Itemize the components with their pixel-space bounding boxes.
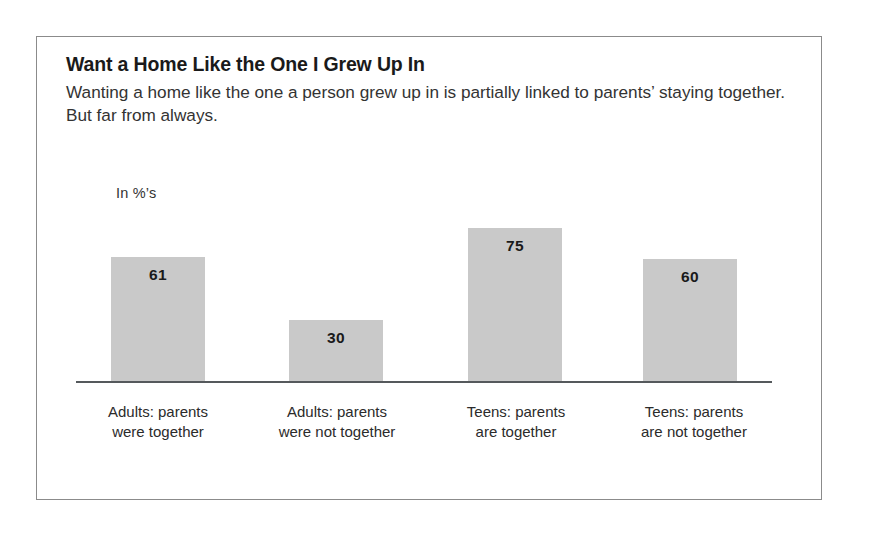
bar-value-label-2: 30 [289,329,383,347]
category-label-line: are together [425,422,607,442]
category-label-4: Teens: parentsare not together [603,402,785,443]
category-label-line: were not together [246,422,428,442]
category-label-2: Adults: parentswere not together [246,402,428,443]
bar-value-label-3: 75 [468,237,562,255]
category-label-1: Adults: parentswere together [67,402,249,443]
category-label-3: Teens: parentsare together [425,402,607,443]
bar-value-label-1: 61 [111,266,205,284]
category-label-line: are not together [603,422,785,442]
plot-area: 61307560 Adults: parentswere togetherAdu… [37,37,823,501]
chart-panel: Want a Home Like the One I Grew Up In Wa… [36,36,822,500]
bar-1: 61 [111,257,205,381]
baseline-axis [76,381,772,383]
bar-2: 30 [289,320,383,381]
category-label-line: Teens: parents [425,402,607,422]
bar-value-label-4: 60 [643,268,737,286]
bar-4: 60 [643,259,737,381]
category-label-line: Adults: parents [67,402,249,422]
category-label-line: Adults: parents [246,402,428,422]
category-label-line: were together [67,422,249,442]
category-label-line: Teens: parents [603,402,785,422]
bar-3: 75 [468,228,562,381]
